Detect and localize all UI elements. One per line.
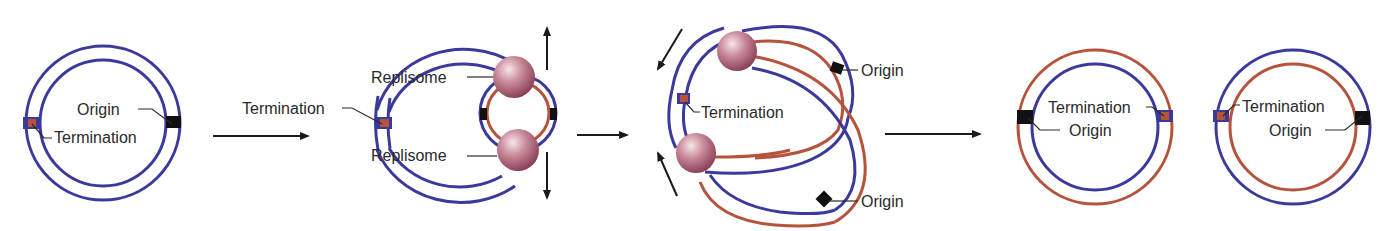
origin-marker	[166, 116, 181, 128]
origin-marker	[1017, 110, 1033, 124]
termination-label: Termination	[54, 129, 137, 146]
replisome-bottom	[497, 129, 539, 171]
stage-theta-replication: Replisome Replisome Termination	[242, 28, 557, 202]
origin-marker-left	[480, 108, 487, 120]
termination-marker	[680, 95, 688, 102]
origin-top-label: Origin	[861, 62, 904, 79]
termination-marker	[1161, 112, 1169, 120]
termination-label: Termination	[1048, 99, 1131, 116]
stage-daughter-circle-2: Termination Origin	[1213, 50, 1370, 204]
stage-daughter-circle-1: Termination Origin	[1017, 50, 1173, 204]
inner-parental-strand	[40, 60, 166, 186]
replisome-bottom-label: Replisome	[371, 147, 447, 164]
origin-label: Origin	[1069, 122, 1112, 139]
origin-marker-right	[550, 108, 557, 120]
origin-marker-bottom	[816, 191, 833, 208]
replisome-top-label: Replisome	[371, 69, 447, 86]
stage-late-replication: Termination Origin Origin	[658, 26, 904, 226]
origin-marker	[1355, 111, 1370, 125]
origin-label: Origin	[77, 101, 120, 118]
stage-parental-circle: Origin Termination	[23, 46, 181, 200]
termination-label: Termination	[242, 100, 325, 117]
replisome-top-direction-arrow	[658, 29, 682, 69]
replisome-bottom-direction-arrow	[658, 153, 677, 196]
termination-marker	[28, 119, 36, 127]
replisome-top	[717, 31, 757, 71]
replisome-top	[493, 56, 535, 98]
lower-loop-blue-bottom	[710, 175, 835, 214]
termination-label: Termination	[1242, 98, 1325, 115]
replisome-bottom	[676, 133, 716, 173]
lower-loop-blue-upper	[705, 118, 848, 173]
termination-label: Termination	[701, 104, 784, 121]
replication-diagram: Origin Termination Replisome Replisome T…	[0, 0, 1391, 231]
outer-parental-strand	[26, 46, 180, 200]
origin-bottom-label: Origin	[861, 193, 904, 210]
origin-label: Origin	[1269, 122, 1312, 139]
